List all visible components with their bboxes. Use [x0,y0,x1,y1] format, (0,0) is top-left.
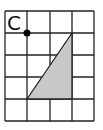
grid-diagram: C [0,0,103,130]
point-c-dot [24,30,31,37]
point-c-label: C [7,11,21,35]
